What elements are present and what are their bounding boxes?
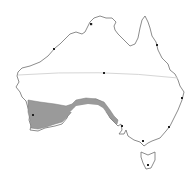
australia-distribution-map — [0, 0, 190, 172]
city-marker-perth — [32, 114, 34, 116]
city-marker-sydney — [168, 126, 170, 128]
city-marker-hobart — [147, 164, 149, 166]
species-range-southwest — [28, 98, 118, 129]
tasmania-outline — [141, 152, 155, 169]
city-marker-broome — [53, 48, 55, 50]
city-marker-darwin — [90, 23, 92, 25]
city-marker-melbourne — [142, 140, 144, 142]
city-marker-brisbane — [181, 97, 183, 99]
city-marker-adelaide — [121, 125, 123, 127]
city-marker-cairns — [156, 44, 158, 46]
map-canvas — [0, 0, 190, 172]
city-marker-alice-springs — [103, 72, 105, 74]
